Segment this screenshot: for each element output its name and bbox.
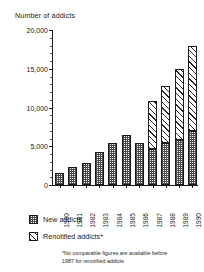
bar-1990 (188, 46, 197, 186)
bar-1981 (68, 167, 77, 185)
legend-swatch-new-addicts (29, 215, 38, 224)
y-tick-minor (50, 77, 53, 78)
bar-1983 (95, 152, 104, 185)
x-tick-label-1987: 1987 (156, 213, 163, 228)
bar-segment-new-1988 (161, 143, 170, 185)
y-tick-major (49, 30, 53, 31)
y-tick-minor (50, 100, 53, 101)
y-tick-minor (50, 38, 53, 39)
bar-segment-new-1986 (135, 143, 144, 185)
legend-item-new-addicts: New addicts (29, 214, 103, 225)
bar-1984 (108, 143, 117, 185)
bar-segment-new-1987 (148, 149, 157, 185)
x-tick-label-1989: 1989 (182, 213, 189, 228)
plot-area (52, 30, 198, 185)
y-tick-minor (50, 123, 53, 124)
x-tick-label-1988: 1988 (169, 213, 176, 228)
bar-1988 (161, 86, 170, 185)
y-tick-label: 5,000 (30, 143, 48, 150)
y-tick-major (49, 108, 53, 109)
bars-container (52, 30, 198, 185)
y-tick-label: 0 (44, 182, 48, 189)
y-tick-minor (50, 53, 53, 54)
y-tick-major (49, 146, 53, 147)
chart-axis-title: Number of addicts (15, 11, 75, 20)
bar-1982 (82, 163, 91, 185)
bar-segment-renotified-1990 (188, 46, 197, 131)
y-tick-minor (50, 177, 53, 178)
bar-segment-new-1984 (108, 143, 117, 185)
y-tick-major (49, 69, 53, 70)
bar-segment-new-1990 (188, 131, 197, 185)
x-axis-labels: 1980198119821983198419851986198719881989… (52, 187, 198, 215)
y-tick-major (49, 185, 53, 186)
bar-segment-renotified-1989 (175, 69, 184, 140)
y-tick-minor (50, 139, 53, 140)
bar-1985 (122, 135, 131, 185)
y-axis-labels: 05,00010,00015,00020,000 (0, 30, 48, 185)
bar-1989 (175, 69, 184, 185)
legend-label-new-addicts: New addicts (43, 215, 82, 224)
chart-page: Number of addicts 05,00010,00015,00020,0… (0, 0, 204, 272)
y-tick-minor (50, 46, 53, 47)
y-tick-minor (50, 162, 53, 163)
x-tick-label-1986: 1986 (142, 213, 149, 228)
bar-segment-new-1981 (68, 167, 77, 185)
y-tick-minor (50, 61, 53, 62)
footnote-line-1: *No comparable figures are available bef… (62, 250, 202, 258)
bar-1987 (148, 101, 157, 185)
y-tick-minor (50, 170, 53, 171)
chart-legend: New addicts Renotified addicts* (29, 214, 103, 248)
bar-segment-renotified-1987 (148, 101, 157, 148)
legend-item-renotified-addicts: Renotified addicts* (29, 231, 103, 242)
bar-1980 (55, 173, 64, 185)
bar-1986 (135, 143, 144, 185)
footnote-line-2: 1987 for renotified addicts (62, 258, 202, 266)
chart-footnote: *No comparable figures are available bef… (62, 250, 202, 266)
y-tick-minor (50, 92, 53, 93)
y-tick-minor (50, 131, 53, 132)
bar-segment-new-1980 (55, 173, 64, 185)
x-tick-label-1985: 1985 (129, 213, 136, 228)
bar-segment-new-1989 (175, 140, 184, 185)
y-tick-minor (50, 154, 53, 155)
bar-segment-new-1982 (82, 163, 91, 185)
y-tick-label: 10,000 (27, 104, 48, 111)
y-tick-label: 15,000 (27, 65, 48, 72)
legend-swatch-renotified-addicts (29, 232, 38, 241)
y-tick-label: 20,000 (27, 27, 48, 34)
x-tick-label-1984: 1984 (116, 213, 123, 228)
y-tick-minor (50, 115, 53, 116)
bar-segment-new-1983 (95, 152, 104, 185)
bar-segment-new-1985 (122, 135, 131, 185)
x-tick-label-1990: 1990 (195, 213, 202, 228)
y-tick-minor (50, 84, 53, 85)
x-tick-label-1983: 1983 (102, 213, 109, 228)
bar-segment-renotified-1988 (161, 86, 170, 143)
legend-label-renotified-addicts: Renotified addicts* (43, 232, 103, 241)
